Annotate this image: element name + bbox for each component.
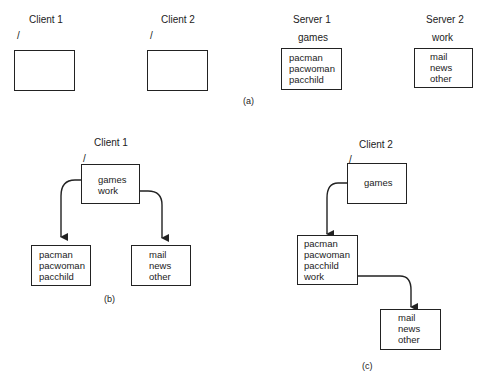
part-c-label: (c) bbox=[362, 361, 373, 371]
work-box: mail news other bbox=[380, 309, 441, 350]
server1-dir: games bbox=[298, 32, 328, 43]
entry: other bbox=[149, 271, 171, 282]
part-a-label: (a) bbox=[243, 96, 254, 106]
games-box: pacman pacwoman pacchild work bbox=[297, 235, 358, 285]
server2-dir: work bbox=[432, 32, 453, 43]
entry: pacwoman bbox=[289, 63, 335, 74]
client1-root-box bbox=[14, 50, 75, 91]
part-b-label: (b) bbox=[104, 294, 115, 304]
entry: other bbox=[398, 334, 420, 345]
client2-root: / bbox=[150, 30, 153, 41]
entry: pacwoman bbox=[304, 249, 350, 260]
client1-title: Client 1 bbox=[29, 14, 63, 25]
entry: pacman bbox=[39, 249, 85, 260]
entry: pacchild bbox=[39, 271, 85, 282]
entry-games: games bbox=[98, 174, 127, 185]
entry: news bbox=[149, 260, 171, 271]
server1-title: Server 1 bbox=[293, 14, 331, 25]
entry: other bbox=[430, 73, 452, 84]
entry: news bbox=[430, 62, 452, 73]
entry: pacman bbox=[289, 52, 335, 63]
entry: mail bbox=[430, 51, 452, 62]
client1-title: Client 1 bbox=[94, 137, 128, 148]
client2-title: Client 2 bbox=[161, 14, 195, 25]
client1-root: / bbox=[83, 153, 86, 164]
client2-root-box: games bbox=[347, 163, 407, 204]
entry: news bbox=[398, 323, 420, 334]
entry: pacman bbox=[304, 238, 350, 249]
client2-root-box bbox=[147, 50, 208, 91]
entry: pacchild bbox=[304, 260, 350, 271]
entry: mail bbox=[149, 249, 171, 260]
server2-title: Server 2 bbox=[426, 14, 464, 25]
client1-root-box: games work bbox=[81, 164, 140, 204]
entry-work: work bbox=[98, 185, 127, 196]
work-box: mail news other bbox=[131, 245, 191, 286]
entry: pacchild bbox=[289, 74, 335, 85]
entry-games: games bbox=[364, 177, 393, 188]
server2-dir-box: mail news other bbox=[414, 48, 473, 88]
games-box: pacman pacwoman pacchild bbox=[31, 245, 91, 286]
entry: pacwoman bbox=[39, 260, 85, 271]
client2-title: Client 2 bbox=[359, 139, 393, 150]
client1-root: / bbox=[17, 30, 20, 41]
entry-work: work bbox=[304, 271, 350, 282]
server1-dir-box: pacman pacwoman pacchild bbox=[281, 48, 342, 90]
entry: mail bbox=[398, 312, 420, 323]
